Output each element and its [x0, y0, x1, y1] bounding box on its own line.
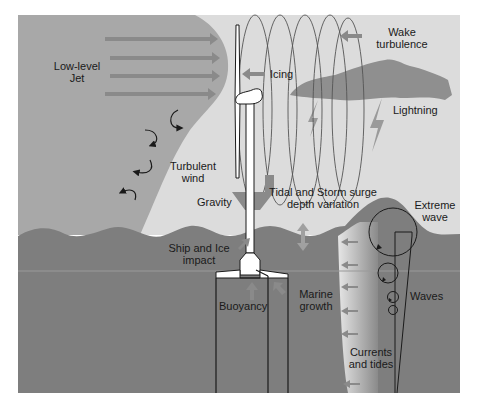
label-currents-tides-line2: and tides [346, 358, 396, 370]
label-wake-turbulence-line1: Wake [372, 26, 432, 38]
label-extreme-wave: Extreme wave [412, 199, 458, 223]
label-marine-growth-line2: growth [295, 300, 337, 312]
label-extreme-wave-line2: wave [412, 211, 458, 223]
label-wake-turbulence: Wake turbulence [372, 26, 432, 50]
transition-piece [240, 253, 260, 275]
label-buoyancy: Buoyancy [219, 300, 267, 312]
diagram: Low-level Jet Wake turbulence Icing Ligh… [0, 0, 477, 410]
label-marine-growth-line1: Marine [295, 288, 337, 300]
turbine-tower [246, 100, 254, 253]
label-marine-growth: Marine growth [295, 288, 337, 312]
label-tidal-storm-line1: Tidal and Storm surge [263, 186, 383, 198]
label-tidal-storm-line2: depth variation [263, 198, 383, 210]
label-icing: Icing [270, 68, 293, 80]
label-tidal-storm-surge: Tidal and Storm surge depth variation [263, 186, 383, 210]
label-wake-turbulence-line2: turbulence [372, 38, 432, 50]
label-turbulent-wind-line2: wind [168, 172, 218, 184]
label-currents-tides: Currents and tides [346, 346, 396, 370]
label-turbulent-wind-line1: Turbulent [168, 160, 218, 172]
label-currents-tides-line1: Currents [346, 346, 396, 358]
label-extreme-wave-line1: Extreme [412, 199, 458, 211]
label-ship-ice-line2: impact [164, 254, 234, 266]
label-ship-ice-line1: Ship and Ice [164, 242, 234, 254]
label-turbulent-wind: Turbulent wind [168, 160, 218, 184]
label-gravity: Gravity [197, 196, 232, 208]
label-low-level-jet-line2: Jet [52, 72, 102, 84]
label-ship-ice-impact: Ship and Ice impact [164, 242, 234, 266]
label-waves: Waves [410, 290, 443, 302]
label-lightning: Lightning [393, 104, 438, 116]
label-low-level-jet: Low-level Jet [52, 60, 102, 84]
label-low-level-jet-line1: Low-level [52, 60, 102, 72]
